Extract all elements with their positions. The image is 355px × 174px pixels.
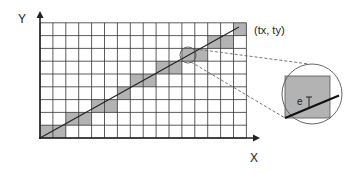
- endpoint-label: (tx, ty): [254, 24, 285, 36]
- shaded-cell: [208, 36, 221, 49]
- y-axis-arrow-icon: [37, 11, 44, 18]
- rasterization-diagram: e Y X (tx, ty): [0, 0, 355, 174]
- x-axis-arrow-icon: [253, 135, 260, 142]
- shaded-cell: [143, 74, 156, 87]
- shaded-cell: [221, 36, 234, 49]
- shaded-cell: [79, 112, 92, 125]
- x-axis-label: X: [250, 151, 258, 165]
- shaded-cell: [130, 74, 143, 87]
- shaded-cell: [66, 112, 79, 125]
- y-axis-label: Y: [18, 12, 26, 26]
- angle-label: e: [297, 96, 303, 107]
- rasterized-line: [40, 27, 239, 138]
- shaded-cell: [169, 61, 182, 74]
- dashed-connector-top: [195, 49, 309, 64]
- dashed-connector-bottom: [191, 62, 285, 118]
